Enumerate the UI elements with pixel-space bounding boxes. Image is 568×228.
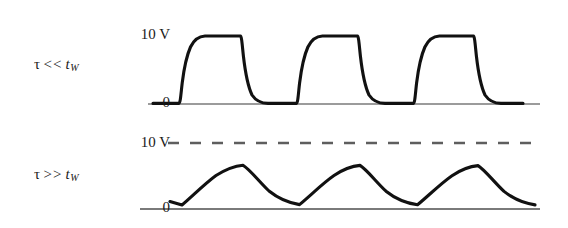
bottom-axis-high-label: 10 V xyxy=(112,134,170,151)
waveform-canvas xyxy=(0,0,568,228)
pulse-width-subscript-slow: W xyxy=(70,172,79,183)
tau-symbol-slow: τ xyxy=(34,166,41,182)
top-waveform-trace xyxy=(153,36,523,103)
panel-fast xyxy=(148,36,540,104)
pulse-width-symbol-slow: tW xyxy=(65,166,79,182)
bottom-axis-zero-label: 0 xyxy=(112,199,170,216)
relation-symbol-slow: >> xyxy=(41,166,66,182)
top-axis-zero-label: 0 xyxy=(112,94,170,111)
relation-symbol-fast: << xyxy=(41,56,66,72)
bottom-waveform-trace xyxy=(170,165,535,205)
panel-slow xyxy=(140,143,540,209)
condition-label-slow: τ>>tW xyxy=(34,166,79,183)
tau-symbol-fast: τ xyxy=(34,56,41,72)
pulse-width-symbol-fast: tW xyxy=(65,56,79,72)
top-axis-high-label: 10 V xyxy=(112,26,170,43)
condition-label-fast: τ<<tW xyxy=(34,56,79,73)
pulse-width-subscript-fast: W xyxy=(70,62,79,73)
waveform-figure: 10 V 0 10 V 0 τ<<tW τ>>tW xyxy=(0,0,568,228)
